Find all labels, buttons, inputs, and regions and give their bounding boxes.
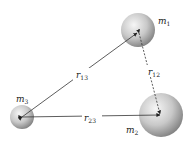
mass-1-sphere	[121, 13, 155, 47]
mass-1-label: m1	[158, 16, 170, 27]
mass-2-label: m2	[126, 125, 139, 136]
three-body-diagram: m1 m2 m3 r13 r12 r23	[0, 0, 194, 145]
mass-3-label: m3	[16, 94, 29, 105]
